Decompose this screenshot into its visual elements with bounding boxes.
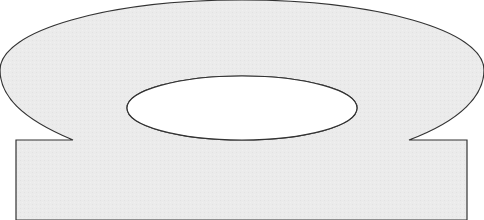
silhouette-figure [0,0,484,220]
hole-ellipse [127,76,357,140]
